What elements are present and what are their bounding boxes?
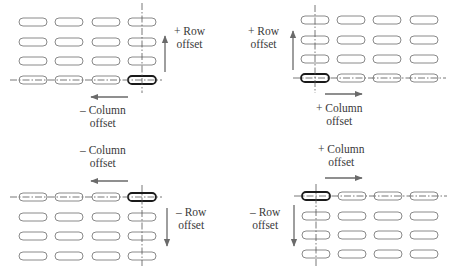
bl-column-offset-label: – Column offset [80,144,126,170]
tr-slot [337,36,365,44]
tr-slot [373,36,401,44]
tl-slot [55,38,83,46]
tl-slot [92,38,120,46]
tr-row-label-line2: offset [248,38,279,51]
tl-row-label-line1: + Row [174,25,205,38]
br-column-offset-label: + Column offset [318,143,364,169]
tl-column-label-line1: – Column [80,104,126,117]
offset-diagram: + Row offset – Column offset + Row offse… [0,0,452,267]
br-slot [374,250,402,258]
tl-slot [55,57,83,65]
tl-column-offset-label: – Column offset [80,104,126,130]
br-column-label-line1: + Column [318,143,364,156]
tr-slot [410,16,438,24]
tl-column-label-line2: offset [80,117,126,130]
bl-row-label-line2: offset [176,219,206,232]
br-slot [374,212,402,220]
bl-slot [92,213,120,221]
bl-row-offset-label: – Row offset [176,206,206,232]
tr-slot [410,55,438,63]
bl-slot [55,213,83,221]
br-slot [374,231,402,239]
tl-row-label-line2: offset [174,38,205,51]
tr-slot [373,55,401,63]
tr-column-label-line1: + Column [316,102,362,115]
tr-column-label-line2: offset [316,115,362,128]
br-column-label-line2: offset [318,156,364,169]
tl-slot [19,57,47,65]
tr-slot [337,55,365,63]
tl-slot [55,18,83,26]
tr-row-label-line1: + Row [248,25,279,38]
tl-slot [19,38,47,46]
br-slot [410,212,438,220]
bl-row-label-line1: – Row [176,206,206,219]
bl-column-label-line1: – Column [80,144,126,157]
br-slot [338,250,366,258]
br-slot [338,212,366,220]
tl-slot [92,57,120,65]
br-row-offset-label: – Row offset [250,206,280,232]
tr-slot [410,36,438,44]
bl-slot [55,252,83,260]
br-row-label-line2: offset [250,219,280,232]
bl-slot [19,232,47,240]
diagram-graphics [0,0,452,267]
bl-slot [19,213,47,221]
br-slot [410,250,438,258]
bl-slot [19,252,47,260]
tr-slot [373,16,401,24]
tl-slot [19,18,47,26]
tr-row-offset-label: + Row offset [248,25,279,51]
br-slot [410,231,438,239]
br-slot [338,231,366,239]
tr-slot [337,16,365,24]
tr-column-offset-label: + Column offset [316,102,362,128]
bl-slot [55,232,83,240]
tl-slot [92,18,120,26]
bl-slot [92,232,120,240]
bl-slot [92,252,120,260]
bl-column-label-line2: offset [80,157,126,170]
tl-row-offset-label: + Row offset [174,25,205,51]
br-row-label-line1: – Row [250,206,280,219]
